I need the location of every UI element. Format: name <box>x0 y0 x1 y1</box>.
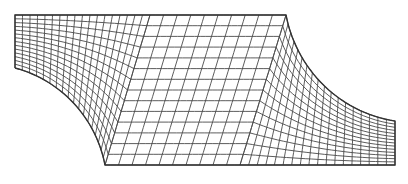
mesh-diagram <box>0 0 408 184</box>
right-block <box>240 15 395 165</box>
mesh-grid-lines <box>15 15 395 165</box>
middle-block <box>105 15 286 165</box>
